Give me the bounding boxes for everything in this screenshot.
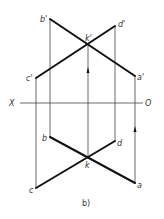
label-b: b: [42, 134, 47, 143]
label-axis-o: O: [145, 99, 151, 108]
label-k: k: [85, 161, 90, 170]
label-a-prime: a': [137, 73, 144, 82]
arrow-up-icon: [87, 67, 90, 73]
label-c-prime: c': [26, 74, 33, 83]
figure-caption: b): [82, 199, 90, 208]
arrow-up-icon: [134, 126, 137, 132]
label-c: c: [29, 186, 34, 195]
label-d-prime: d': [118, 20, 125, 29]
label-b-prime: b': [40, 15, 47, 24]
label-k-prime: k': [85, 34, 92, 43]
label-axis-x: X: [8, 99, 15, 108]
label-d: d: [117, 139, 123, 148]
projection-diagram: b' d' k' c' a' X O b d k c a b): [0, 0, 164, 219]
label-a: a: [137, 181, 142, 190]
line-c-prime-d-prime: [36, 26, 115, 78]
line-c-d: [36, 141, 115, 188]
line-b-a: [50, 137, 135, 183]
